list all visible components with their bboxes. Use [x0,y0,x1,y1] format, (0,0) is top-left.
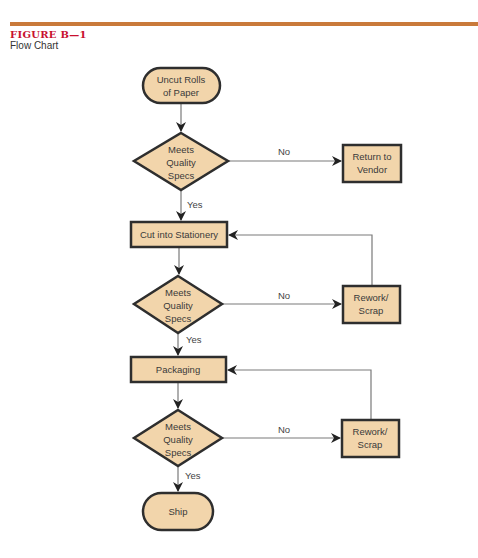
edge-rework1-loop [229,235,372,285]
edge-label-check2-yes: Yes [186,334,202,345]
check2-line-3: Specs [165,313,192,324]
packaging-label: Packaging [156,364,200,375]
start-line-1: Uncut Rolls [157,74,206,85]
rework2-line-2: Scrap [358,439,383,450]
check1-line-3: Specs [168,170,195,181]
rework1-line-1: Rework/ [354,292,389,303]
check3-line-1: Meets [165,421,191,432]
rework1-line-2: Scrap [359,305,384,316]
check2-line-1: Meets [165,287,191,298]
edge-label-check1-no: No [278,146,290,157]
edge-rework2-loop [228,370,371,419]
flow-chart: No Yes No Yes No Yes Uncut Rolls of Pape… [0,0,478,558]
cut-label: Cut into Stationery [140,229,218,240]
edge-label-check2-no: No [278,290,290,301]
check3-line-2: Quality [163,434,193,445]
return-vendor-line-1: Return to [352,151,391,162]
ship-label: Ship [168,506,187,517]
check1-line-2: Quality [166,157,196,168]
edge-label-check3-yes: Yes [185,470,201,481]
check2-line-2: Quality [163,300,193,311]
check3-line-3: Specs [165,447,192,458]
start-line-2: of Paper [163,87,199,98]
edge-label-check1-yes: Yes [187,199,203,210]
edge-label-check3-no: No [278,424,290,435]
check1-line-1: Meets [168,144,194,155]
rework2-line-1: Rework/ [353,426,388,437]
return-vendor-line-2: Vendor [357,164,387,175]
